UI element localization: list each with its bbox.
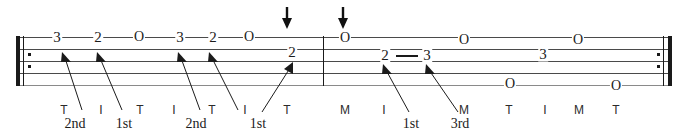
finger-label: T: [208, 104, 215, 116]
open-string-mark: O: [610, 79, 622, 93]
pointer-arrow-3rd: [424, 64, 462, 114]
slide-connector: [396, 55, 418, 57]
fret-number: 3: [422, 48, 432, 63]
open-string-mark: O: [572, 33, 584, 47]
string-callout: 2nd: [186, 117, 207, 131]
fret-number: 3: [538, 47, 548, 62]
finger-label: M: [574, 104, 584, 116]
string-callout: 1st: [403, 117, 419, 131]
fret-number: 2: [208, 30, 218, 45]
finger-label: T: [612, 104, 619, 116]
finger-label: T: [283, 104, 290, 116]
tablature-sheet: 3 2 O 3 2 O 2 O 2 3 O O 3 O O T I: [0, 0, 683, 135]
finger-label: T: [136, 104, 143, 116]
string-callout: 3rd: [451, 117, 470, 131]
open-string-mark: O: [458, 33, 470, 47]
open-repeat-thin-bar: [23, 36, 24, 86]
close-repeat-dot-upper: [657, 53, 660, 56]
finger-label: M: [340, 104, 350, 116]
finger-label: I: [243, 104, 246, 116]
open-string-mark: O: [339, 31, 351, 45]
close-repeat-thin-bar: [663, 36, 664, 86]
finger-label: M: [459, 104, 469, 116]
close-repeat-thick-bar: [668, 36, 672, 86]
fret-number: 2: [93, 30, 103, 45]
string-callout: 1st: [250, 117, 266, 131]
finger-label: I: [382, 104, 385, 116]
finger-label: I: [172, 104, 175, 116]
finger-label: I: [543, 104, 546, 116]
down-arrow-1: [281, 6, 295, 30]
finger-label: T: [60, 104, 67, 116]
open-string-mark: O: [243, 30, 255, 44]
open-string-mark: O: [133, 30, 145, 44]
fret-number: 2: [287, 45, 297, 60]
open-repeat-dot-lower: [28, 65, 31, 68]
open-repeat-dot-upper: [28, 53, 31, 56]
fret-number: 3: [175, 30, 185, 45]
close-repeat-dot-lower: [657, 65, 660, 68]
pointer-arrow-1st-d: [381, 64, 413, 114]
fret-number: 2: [380, 48, 390, 63]
open-string-mark: O: [504, 77, 516, 91]
finger-label: I: [99, 104, 102, 116]
open-repeat-thick-bar: [16, 36, 20, 86]
string-callout: 1st: [116, 117, 132, 131]
pointer-arrow-2nd-b: [176, 52, 204, 112]
down-arrow-2: [337, 6, 351, 30]
staff-line-2: [16, 49, 672, 50]
finger-label: T: [505, 104, 512, 116]
fret-number: 3: [52, 30, 62, 45]
measure-divider: [323, 36, 324, 86]
string-callout: 2nd: [65, 117, 86, 131]
